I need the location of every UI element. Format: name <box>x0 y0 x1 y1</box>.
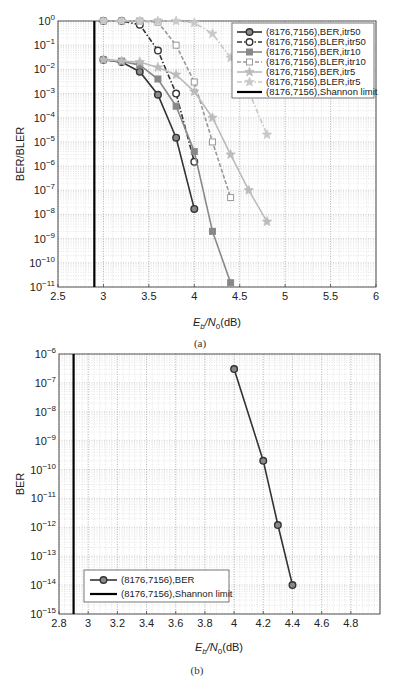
y-tick-label: 10−9 <box>35 433 57 447</box>
x-tick-label: 5 <box>282 290 288 302</box>
circle-marker-icon <box>260 458 267 465</box>
circle-marker-icon <box>173 134 180 141</box>
x-tick-label: 4.8 <box>343 617 358 629</box>
y-tick-label: 10−7 <box>35 375 57 389</box>
y-tick-label: 10−9 <box>34 231 56 245</box>
y-tick-label: 100 <box>38 13 55 27</box>
square-marker-icon <box>173 103 179 109</box>
y-tick-label: 10−8 <box>34 206 56 220</box>
y-tick-label: 10−3 <box>34 86 56 100</box>
y-tick-label: 10−14 <box>30 577 56 591</box>
y-tick-label: 10−13 <box>30 548 56 562</box>
x-axis-label-b: Eb/N0(dB) <box>195 641 243 656</box>
square-marker-icon <box>209 139 215 145</box>
x-tick-label: 4.2 <box>256 617 271 629</box>
circle-marker-icon <box>246 39 253 46</box>
y-tick-label: 10−5 <box>34 134 56 148</box>
x-tick-label: 3.5 <box>141 290 156 302</box>
x-tick-label: 6 <box>373 290 379 302</box>
figure-canvas: 2.533.544.555.5610010−110−210−310−410−51… <box>0 0 395 687</box>
x-tick-label: 3.6 <box>168 617 183 629</box>
y-tick-label: 10−7 <box>34 182 56 196</box>
legend-a: (8176,7156),BER,itr50 (8176,7156),BLER,i… <box>232 23 378 98</box>
square-marker-icon <box>191 149 197 155</box>
y-tick-label: 10−4 <box>34 110 56 124</box>
y-tick-label: 10−2 <box>34 61 56 75</box>
x-tick-label: 3.8 <box>197 617 212 629</box>
circle-marker-icon <box>155 91 162 98</box>
legend-entry: (8176,7156),BER <box>121 574 195 585</box>
x-axis-label-a: Eb/N0(dB) <box>193 316 241 331</box>
y-tick-label: 10−6 <box>35 346 57 360</box>
x-tick-label: 2.8 <box>51 617 66 629</box>
x-tick-label: 4.5 <box>232 290 247 302</box>
circle-marker-icon <box>275 522 282 529</box>
square-marker-icon <box>209 228 215 234</box>
y-tick-label: 10−10 <box>29 255 55 269</box>
square-marker-icon <box>247 49 253 55</box>
circle-marker-icon <box>231 366 238 373</box>
y-tick-label: 10−11 <box>31 490 57 504</box>
legend-b: (8176,7156),BER (8176,7156),Shannon limi… <box>84 570 233 602</box>
square-marker-icon <box>173 42 179 48</box>
circle-marker-icon <box>246 29 253 36</box>
x-tick-label: 5.5 <box>323 290 338 302</box>
circle-marker-icon <box>289 582 296 589</box>
y-axis-label-a: BER/BLER <box>14 127 26 181</box>
legend-entry: (8176,7156),Shannon limit <box>266 86 378 97</box>
y-tick-label: 10−6 <box>34 158 56 172</box>
square-marker-icon <box>247 59 253 65</box>
x-tick-label: 4.4 <box>285 617 300 629</box>
x-tick-label: 4 <box>191 290 197 302</box>
square-marker-icon <box>155 76 161 82</box>
circle-marker-icon <box>173 90 180 97</box>
caption-b: (b) <box>191 664 204 677</box>
legend-entry: (8176,7156),Shannon limit <box>121 588 233 599</box>
x-tick-label: 4.6 <box>314 617 329 629</box>
square-marker-icon <box>228 280 234 286</box>
y-tick-label: 10−12 <box>30 519 56 533</box>
x-tick-label: 2.5 <box>50 290 65 302</box>
x-tick-label: 3.2 <box>110 617 125 629</box>
y-tick-label: 10−1 <box>34 37 56 51</box>
square-marker-icon <box>228 195 234 201</box>
square-marker-icon <box>191 79 197 85</box>
y-axis-label-b: BER <box>14 473 26 496</box>
circle-marker-icon <box>155 47 162 54</box>
circle-marker-icon <box>191 206 198 213</box>
y-tick-label: 10−10 <box>30 462 56 476</box>
y-tick-label: 10−8 <box>35 404 57 418</box>
x-tick-label: 3.4 <box>139 617 154 629</box>
circle-marker-icon <box>136 68 143 75</box>
circle-marker-icon <box>100 577 107 584</box>
caption-a: (a) <box>194 337 207 350</box>
x-tick-label: 4 <box>231 617 237 629</box>
x-tick-label: 3 <box>85 617 91 629</box>
x-tick-label: 3 <box>100 290 106 302</box>
